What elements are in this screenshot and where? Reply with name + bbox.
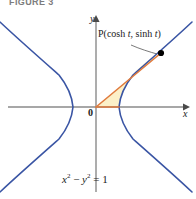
leader-line — [131, 45, 157, 54]
ray-to-point-p — [96, 53, 161, 107]
equation-label: x2 − y2 = 1 — [62, 172, 108, 185]
equation-minus: − — [70, 173, 82, 185]
figure-panel: FIGURE 3 P(cosh t, sinh t) y x 0 x2 − y2… — [0, 0, 196, 199]
x-axis-label: x — [183, 108, 187, 119]
origin-label: 0 — [88, 107, 93, 118]
point-p-suffix: ) — [157, 28, 160, 39]
point-p-prefix: P(cosh — [98, 28, 128, 39]
point-p-mid: , sinh — [131, 28, 155, 39]
y-axis-label: y — [90, 13, 94, 24]
point-p-label: P(cosh t, sinh t) — [98, 28, 161, 39]
point-p-marker — [158, 50, 164, 56]
equation-equals: = 1 — [91, 173, 108, 185]
